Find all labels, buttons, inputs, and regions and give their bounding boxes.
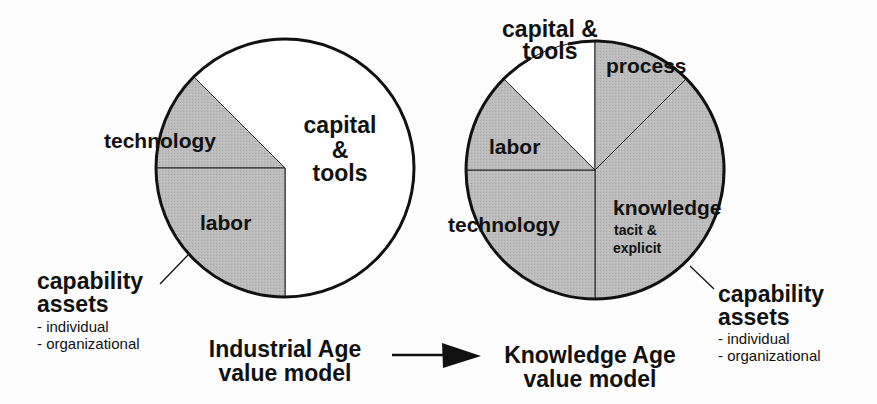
- industrial-age-title-line2: value model: [195, 362, 375, 385]
- transition-arrow-icon: [392, 343, 481, 368]
- label-capital: capital: [296, 114, 384, 137]
- callout-title-line2: assets: [718, 306, 790, 329]
- callout-leader-line: [690, 266, 714, 289]
- label-technology: technology: [104, 130, 216, 151]
- callout-item-individual: - individual: [37, 319, 109, 335]
- label-ampersand: &: [296, 139, 384, 162]
- label-technology: technology: [448, 214, 560, 235]
- callout-leader-line: [160, 255, 188, 284]
- knowledge-age-title-line2: value model: [490, 368, 690, 391]
- label-tools: tools: [475, 40, 625, 63]
- callout-title-line2: assets: [37, 293, 109, 316]
- callout-title-line1: capability: [718, 283, 824, 306]
- callout-item-individual: - individual: [718, 331, 790, 347]
- industrial-age-title-line1: Industrial Age: [195, 338, 375, 361]
- label-explicit: explicit: [613, 241, 661, 255]
- label-tacit: tacit &: [614, 223, 657, 237]
- knowledge-age-title-line1: Knowledge Age: [490, 344, 690, 367]
- knowledge-age-pie: [466, 41, 724, 299]
- label-process: process: [606, 55, 687, 76]
- callout-title-line1: capability: [37, 270, 143, 293]
- label-knowledge: knowledge: [613, 197, 722, 218]
- label-labor: labor: [200, 212, 251, 233]
- callout-item-organizational: - organizational: [718, 348, 821, 364]
- label-labor: labor: [489, 136, 540, 157]
- label-tools: tools: [296, 162, 384, 185]
- callout-item-organizational: - organizational: [37, 336, 140, 352]
